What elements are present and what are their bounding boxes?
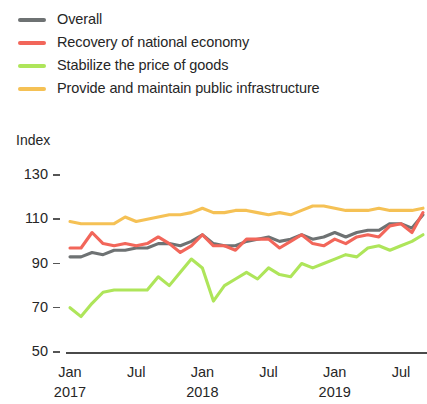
chart-figure: Overall Recovery of national economy Sta…	[0, 0, 427, 404]
series-line-stabilize-the-price-of-goods	[70, 235, 423, 317]
chart-plot-area	[0, 0, 427, 404]
series-line-provide-and-maintain-public-infrastructure	[70, 206, 423, 224]
